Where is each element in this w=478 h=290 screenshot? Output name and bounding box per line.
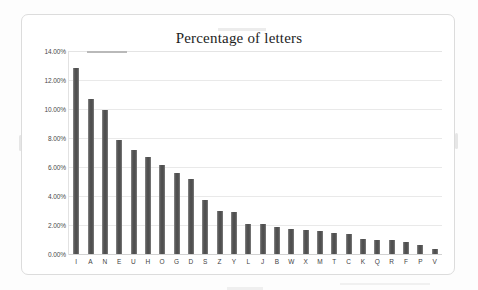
bar-slot [212, 51, 226, 254]
y-axis-tick-label: 10.00% [22, 106, 66, 113]
y-axis-tick-label: 12.00% [22, 77, 66, 84]
x-axis-tick-label: L [241, 258, 255, 272]
bar-f[interactable] [403, 242, 409, 254]
bar-slot [98, 51, 112, 254]
x-axis-tick-label: W [284, 258, 298, 272]
bar-g[interactable] [174, 173, 180, 254]
bar-slot [198, 51, 212, 254]
x-axis-line [69, 254, 442, 255]
bar-u[interactable] [131, 150, 137, 254]
x-axis-tick-label: J [255, 258, 269, 272]
bar-slot [413, 51, 427, 254]
x-axis-tick-label: K [356, 258, 370, 272]
bar-slot [428, 51, 442, 254]
bar-v[interactable] [432, 249, 438, 254]
bar-slot [370, 51, 384, 254]
y-axis-tick-label: 4.00% [22, 193, 66, 200]
bar-n[interactable] [102, 110, 108, 254]
bar-t[interactable] [331, 233, 337, 254]
bar-x[interactable] [303, 230, 309, 254]
x-axis-tick-label: C [342, 258, 356, 272]
bar-y[interactable] [231, 212, 237, 254]
bar-m[interactable] [317, 231, 323, 254]
bar-l[interactable] [245, 224, 251, 254]
x-axis-tick-label: E [112, 258, 126, 272]
bar-slot [270, 51, 284, 254]
bar-slot [299, 51, 313, 254]
y-axis-tick-label: 6.00% [22, 164, 66, 171]
x-axis-tick-labels: IANEUHOGDSZYLJBWXMTCKQRFPV [69, 258, 442, 272]
bar-slot [155, 51, 169, 254]
bar-slot [356, 51, 370, 254]
bar-series [69, 51, 442, 254]
bar-r[interactable] [389, 240, 395, 254]
bar-slot [227, 51, 241, 254]
x-axis-tick-label: N [98, 258, 112, 272]
x-axis-tick-label: M [313, 258, 327, 272]
bar-a[interactable] [88, 99, 94, 254]
x-axis-tick-label: T [327, 258, 341, 272]
x-axis-tick-label: F [399, 258, 413, 272]
y-axis-tick-label: 8.00% [22, 135, 66, 142]
bar-w[interactable] [288, 229, 294, 254]
x-axis-tick-label: U [126, 258, 140, 272]
bar-slot [112, 51, 126, 254]
y-axis-tick-label: 2.00% [22, 222, 66, 229]
bar-o[interactable] [159, 165, 165, 254]
bar-d[interactable] [188, 179, 194, 254]
bar-slot [69, 51, 83, 254]
bar-slot [284, 51, 298, 254]
scan-artifact-bottom [340, 283, 430, 285]
y-axis-tick-label: 0.00% [22, 251, 66, 258]
y-axis: 14.00%12.00%10.00%8.00%6.00%4.00%2.00%0.… [22, 51, 66, 254]
bar-slot [169, 51, 183, 254]
x-axis-tick-label: D [184, 258, 198, 272]
x-axis-tick-label: I [69, 258, 83, 272]
bar-slot [327, 51, 341, 254]
x-axis-tick-label: V [428, 258, 442, 272]
bar-slot [141, 51, 155, 254]
x-axis-tick-label: G [169, 258, 183, 272]
x-axis-tick-label: A [83, 258, 97, 272]
x-axis-tick-label: X [299, 258, 313, 272]
bar-k[interactable] [360, 239, 366, 254]
bar-p[interactable] [417, 245, 423, 254]
bar-b[interactable] [274, 227, 280, 254]
bar-slot [126, 51, 140, 254]
bar-e[interactable] [116, 140, 122, 254]
x-axis-tick-label: S [198, 258, 212, 272]
x-axis-tick-label: Q [370, 258, 384, 272]
x-axis-tick-label: B [270, 258, 284, 272]
bar-s[interactable] [202, 200, 208, 254]
chart-container: Percentage of letters 14.00%12.00%10.00%… [21, 14, 455, 275]
bar-slot [399, 51, 413, 254]
x-axis-tick-label: Y [227, 258, 241, 272]
bar-slot [255, 51, 269, 254]
bar-h[interactable] [145, 157, 151, 254]
bar-slot [83, 51, 97, 254]
bar-c[interactable] [346, 234, 352, 254]
y-axis-tick-label: 14.00% [22, 48, 66, 55]
bar-j[interactable] [260, 224, 266, 254]
x-axis-tick-label: O [155, 258, 169, 272]
chart-title: Percentage of letters [22, 30, 456, 47]
x-axis-tick-label: Z [212, 258, 226, 272]
scanned-page: Percentage of letters 14.00%12.00%10.00%… [0, 0, 478, 290]
x-axis-tick-label: H [141, 258, 155, 272]
bar-slot [241, 51, 255, 254]
bar-i[interactable] [73, 68, 79, 254]
plot-area [69, 51, 442, 254]
x-axis-tick-label: R [385, 258, 399, 272]
bar-slot [184, 51, 198, 254]
bar-slot [385, 51, 399, 254]
scan-artifact-right [455, 133, 458, 149]
bar-slot [313, 51, 327, 254]
bar-slot [342, 51, 356, 254]
x-axis-tick-label: P [413, 258, 427, 272]
bar-z[interactable] [217, 211, 223, 255]
bar-q[interactable] [374, 240, 380, 255]
